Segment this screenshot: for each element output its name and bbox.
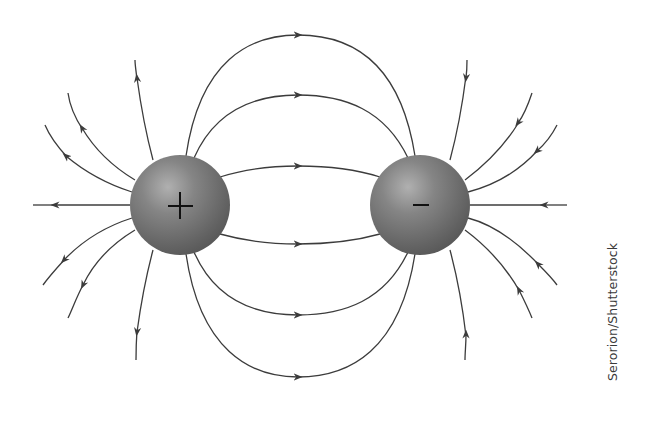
field-line [220,234,298,244]
field-line [186,254,298,377]
image-credit: Serorion/Shutterstock [605,243,620,381]
field-line [220,166,298,177]
positive-charge [130,155,230,255]
negative-charge [370,155,470,255]
field-line [194,252,298,315]
electric-dipole-field-diagram [0,0,649,422]
field-line [194,95,298,158]
